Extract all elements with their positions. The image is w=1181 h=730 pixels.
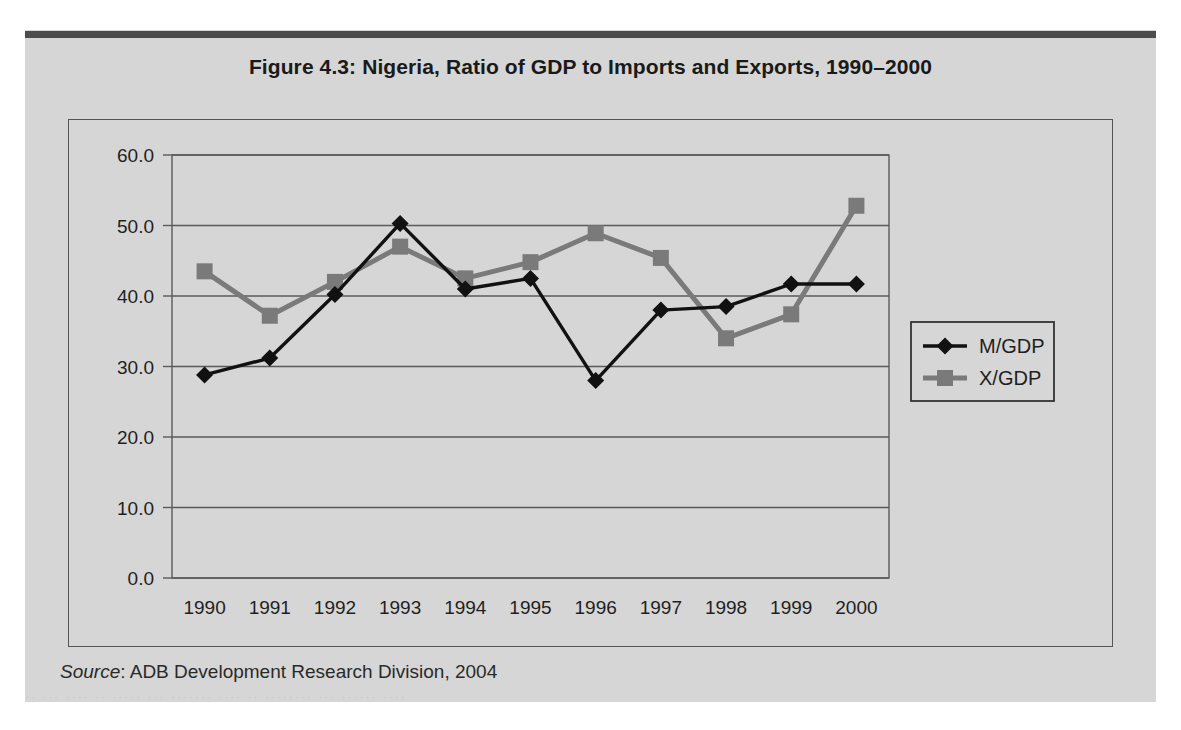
legend-box — [911, 322, 1054, 401]
legend-swatch-marker — [937, 370, 953, 386]
data-point-marker — [718, 298, 735, 315]
legend-label: X/GDP — [979, 367, 1041, 389]
y-axis-tick-label: 50.0 — [117, 216, 154, 237]
data-point-marker — [523, 254, 539, 270]
legend-label: M/GDP — [979, 335, 1045, 357]
y-axis-tick-label: 0.0 — [128, 568, 154, 589]
x-axis-tick-label: 1995 — [509, 597, 551, 618]
x-axis-tick-label: 1999 — [770, 597, 812, 618]
data-point-marker — [197, 263, 213, 279]
x-axis-tick-label: 1990 — [183, 597, 225, 618]
x-axis-tick-label: 1994 — [444, 597, 487, 618]
y-axis-tick-label: 20.0 — [117, 427, 154, 448]
data-series-group — [196, 198, 865, 389]
x-axis-tick-label: 1992 — [314, 597, 356, 618]
figure-title: Figure 4.3: Nigeria, Ratio of GDP to Imp… — [25, 55, 1156, 79]
x-axis-tick-label: 2000 — [835, 597, 877, 618]
data-point-marker — [848, 198, 864, 214]
data-point-marker — [718, 330, 734, 346]
y-axis-tick-labels: 60.050.040.030.020.010.00.0 — [117, 145, 154, 589]
x-axis-tick-label: 1991 — [249, 597, 291, 618]
source-text: : ADB Development Research Division, 200… — [120, 661, 497, 682]
data-point-marker — [262, 308, 278, 324]
x-axis-tick-label: 1996 — [575, 597, 617, 618]
scan-ghost-text: ·· ··· ···· ·· ····· ··· ······· ···· ··… — [25, 690, 1156, 710]
chart-legend: M/GDPX/GDP — [911, 322, 1054, 401]
x-axis-tick-label: 1997 — [640, 597, 682, 618]
data-point-marker — [848, 276, 865, 293]
data-point-marker — [653, 250, 669, 266]
y-axis-tick-label: 60.0 — [117, 145, 154, 166]
x-axis-tick-label: 1993 — [379, 597, 421, 618]
y-axis-tick-label: 30.0 — [117, 357, 154, 378]
line-chart: 60.050.040.030.020.010.00.0 199019911992… — [68, 119, 1113, 647]
data-point-marker — [783, 276, 800, 293]
top-rule-divider — [25, 31, 1156, 38]
series-line-m-gdp — [205, 223, 857, 380]
data-point-marker — [522, 270, 539, 287]
source-label: Source — [60, 661, 120, 682]
data-point-marker — [783, 306, 799, 322]
x-axis-tick-labels: 1990199119921993199419951996199719981999… — [183, 597, 877, 618]
data-point-marker — [588, 225, 604, 241]
gridlines-group — [172, 155, 889, 578]
data-point-marker — [392, 239, 408, 255]
y-axis-tick-label: 40.0 — [117, 286, 154, 307]
x-axis-tick-label: 1998 — [705, 597, 747, 618]
y-axis-tick-label: 10.0 — [117, 498, 154, 519]
source-note: Source: ADB Development Research Divisio… — [60, 661, 497, 683]
data-point-marker — [196, 366, 213, 383]
figure-page: Figure 4.3: Nigeria, Ratio of GDP to Imp… — [0, 0, 1181, 730]
